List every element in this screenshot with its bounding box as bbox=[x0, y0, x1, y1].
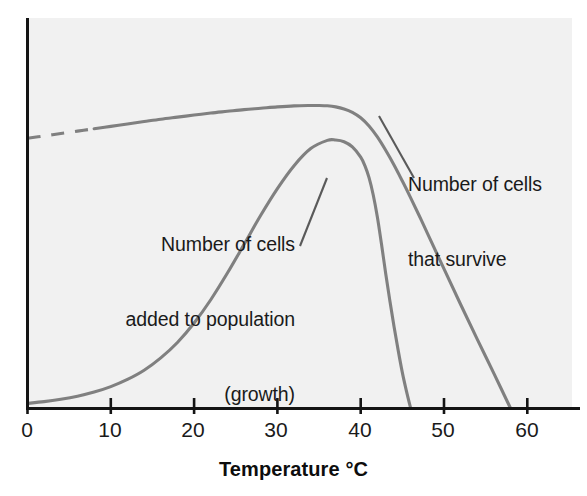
annotation-survive-line-1: Number of cells bbox=[408, 172, 542, 197]
x-tick-label-60: 60 bbox=[497, 418, 557, 442]
x-tick-label-40: 40 bbox=[330, 418, 390, 442]
annotation-survive-line-2: that survive bbox=[408, 247, 542, 272]
chart-figure: 0 10 20 30 40 50 60 Number of cells that… bbox=[0, 0, 587, 496]
annotation-growth-line-1: Number of cells bbox=[60, 232, 295, 257]
x-axis-title: Temperature °C bbox=[0, 458, 587, 481]
x-tick-label-50: 50 bbox=[413, 418, 473, 442]
annotation-cells-added-growth: Number of cells added to population (gro… bbox=[60, 182, 295, 457]
annotation-growth-line-2: added to population bbox=[60, 307, 295, 332]
x-tick-label-0: 0 bbox=[0, 418, 57, 442]
annotation-cells-that-survive: Number of cells that survive bbox=[408, 122, 542, 322]
annotation-growth-line-3: (growth) bbox=[60, 382, 295, 407]
